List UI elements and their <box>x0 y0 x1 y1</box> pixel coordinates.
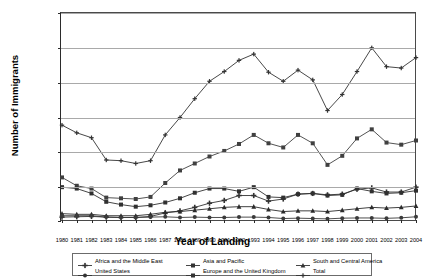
legend-marker-square-icon <box>185 256 201 265</box>
x-axis-tick <box>269 220 270 223</box>
x-axis-tick <box>239 220 240 223</box>
y-axis-tick <box>58 83 61 84</box>
data-point-line-plus <box>60 123 64 127</box>
gridline <box>61 187 415 188</box>
data-point-filled-square <box>237 189 241 193</box>
data-point-square <box>237 142 241 146</box>
data-point-circle <box>90 214 94 218</box>
data-point-filled-square <box>281 196 285 200</box>
y-axis-tick <box>58 13 61 14</box>
legend-item[interactable]: South and Central America <box>295 256 415 265</box>
legend-label: South and Central America <box>313 258 382 264</box>
legend-marker-triangle-icon <box>295 256 311 265</box>
data-point-square <box>296 133 300 137</box>
data-point-square <box>119 196 123 200</box>
legend-label: Africa and the Middle East <box>95 258 163 264</box>
data-point-filled-square <box>326 194 330 198</box>
data-point-circle <box>267 215 271 219</box>
x-axis-tick <box>62 220 63 223</box>
data-point-filled-square <box>414 189 418 193</box>
data-point-filled-square <box>385 191 389 195</box>
data-point-filled-square <box>163 200 167 204</box>
data-point-circle <box>134 215 138 219</box>
legend-marker-circle-icon <box>77 266 93 275</box>
data-point-line-plus <box>355 69 359 73</box>
x-axis-tick <box>180 220 181 223</box>
data-point-square <box>252 133 256 137</box>
x-axis-tick <box>106 220 107 223</box>
data-point-square <box>208 155 212 159</box>
data-point-square <box>193 161 197 165</box>
data-point-filled-square <box>191 274 195 278</box>
data-point-square <box>399 143 403 147</box>
y-axis-tick <box>58 48 61 49</box>
data-point-circle <box>119 215 123 219</box>
legend-item[interactable]: Africa and the Middle East <box>77 256 183 265</box>
data-point-circle <box>163 215 167 219</box>
legend-label: Total <box>313 268 325 274</box>
data-point-square <box>385 141 389 145</box>
x-axis-tick <box>121 220 122 223</box>
data-point-filled-square <box>149 203 153 207</box>
data-point-circle <box>83 274 87 278</box>
legend-item[interactable]: Total <box>295 266 415 275</box>
data-point-filled-square <box>311 191 315 195</box>
x-axis-tick <box>342 220 343 223</box>
x-axis-tick <box>195 220 196 223</box>
data-point-plus-cross <box>251 193 256 198</box>
x-axis-tick <box>416 220 417 223</box>
data-point-square <box>134 197 138 201</box>
legend-item[interactable]: United States <box>77 266 183 275</box>
data-point-plus-cross <box>207 201 212 206</box>
x-axis-tick <box>224 220 225 223</box>
data-point-filled-square <box>193 191 197 195</box>
x-axis-tick <box>136 220 137 223</box>
data-point-plus-cross <box>266 199 271 204</box>
legend-item[interactable]: Asia and Pacific <box>185 256 295 265</box>
x-axis-tick <box>92 220 93 223</box>
data-point-square <box>311 141 315 145</box>
y-axis-tick <box>58 152 61 153</box>
data-point-square <box>414 138 418 142</box>
data-point-square <box>370 127 374 131</box>
x-axis-tick <box>151 220 152 223</box>
y-axis-tick <box>58 187 61 188</box>
y-axis-tick <box>58 118 61 119</box>
data-point-circle <box>75 214 79 218</box>
x-axis-tick <box>372 220 373 223</box>
legend-label: Asia and Pacific <box>203 258 244 264</box>
data-point-square <box>340 154 344 158</box>
gridline <box>61 118 415 119</box>
x-axis-tick <box>298 220 299 223</box>
data-point-square <box>281 145 285 149</box>
x-axis-tick <box>328 220 329 223</box>
data-point-filled-square <box>399 191 403 195</box>
data-point-filled-square <box>340 193 344 197</box>
data-point-square <box>149 195 153 199</box>
data-point-square <box>326 163 330 167</box>
x-axis-tick <box>401 220 402 223</box>
data-point-circle <box>104 215 108 219</box>
gridline <box>61 13 415 14</box>
chart-legend: Africa and the Middle EastAsia and Pacif… <box>72 253 372 276</box>
data-point-circle <box>208 215 212 219</box>
legend-item[interactable]: Europe and the United Kingdom <box>185 266 295 275</box>
plot-area: 300,000250,000200,000150,000100,00050,00… <box>60 12 416 221</box>
data-point-square <box>267 141 271 145</box>
data-point-square <box>163 181 167 185</box>
gridline <box>61 83 415 84</box>
data-point-circle <box>193 215 197 219</box>
data-point-filled-square <box>296 192 300 196</box>
data-point-triangle <box>414 203 419 208</box>
data-point-filled-square <box>178 196 182 200</box>
x-axis-title: Year of Landing <box>0 236 425 247</box>
y-axis-title: Number of Immigrants <box>9 6 20 206</box>
data-point-plus-cross <box>236 193 241 198</box>
x-axis-tick <box>210 220 211 223</box>
data-point-circle <box>414 215 418 219</box>
data-point-filled-square <box>104 200 108 204</box>
x-axis-tick <box>357 220 358 223</box>
data-point-square <box>178 168 182 172</box>
legend-label: Europe and the United Kingdom <box>203 268 286 274</box>
chart-figure: Number of Immigrants 300,000250,000200,0… <box>0 0 425 280</box>
